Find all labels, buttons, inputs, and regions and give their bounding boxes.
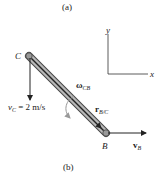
point-c-label: C (15, 52, 21, 61)
position-vector-label: rB/C (95, 105, 108, 115)
point-b-label: B (102, 142, 108, 151)
omega-label: ωCB (76, 81, 90, 91)
x-axis-label: x (150, 70, 154, 79)
y-axis-label: y (106, 26, 110, 35)
caption-b: (b) (63, 163, 74, 172)
coordinate-axes (108, 34, 148, 74)
velocity-c-label: vC = 2 m/s (8, 103, 45, 113)
caption-a: (a) (62, 3, 72, 12)
velocity-b-label: vB (133, 141, 141, 151)
